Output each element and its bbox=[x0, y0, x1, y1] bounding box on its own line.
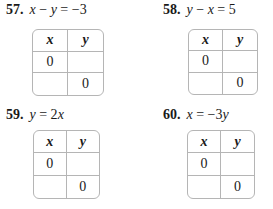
header-x: x bbox=[33, 30, 68, 52]
problem-60-label: 60.x = −3y bbox=[163, 107, 229, 123]
equation: x − y = −3 bbox=[30, 2, 87, 17]
cell-r1-x: 0 bbox=[34, 153, 67, 175]
cell-r2-y: 0 bbox=[223, 73, 257, 94]
header-y: y bbox=[67, 131, 100, 153]
cell-r2-x bbox=[189, 73, 223, 94]
value-table-57: x y 0 0 bbox=[32, 29, 104, 96]
header-x: x bbox=[34, 131, 67, 153]
cell-r1-y bbox=[67, 153, 100, 175]
equation: x = −3y bbox=[187, 107, 229, 122]
cell-r1-x: 0 bbox=[33, 52, 68, 74]
cell-r1-x: 0 bbox=[189, 51, 223, 72]
equation: y = 2x bbox=[30, 107, 64, 122]
problem-59-label: 59.y = 2x bbox=[6, 107, 64, 123]
problem-number: 57. bbox=[6, 2, 24, 17]
cell-r2-y: 0 bbox=[68, 73, 103, 95]
value-table-60: x y 0 0 bbox=[187, 130, 255, 199]
cell-r2-x bbox=[33, 73, 68, 95]
cell-r2-y: 0 bbox=[221, 176, 254, 198]
cell-r1-y bbox=[223, 51, 257, 72]
header-y: y bbox=[68, 30, 103, 52]
cell-r1-y bbox=[68, 52, 103, 74]
problem-number: 59. bbox=[6, 107, 24, 122]
problem-number: 60. bbox=[163, 107, 181, 122]
cell-r2-x bbox=[34, 176, 67, 198]
cell-r1-x: 0 bbox=[188, 153, 221, 175]
header-y: y bbox=[221, 131, 254, 153]
header-x: x bbox=[189, 30, 223, 51]
problem-58-label: 58.y − x = 5 bbox=[163, 2, 236, 18]
value-table-58: x y 0 0 bbox=[188, 29, 258, 95]
value-table-59: x y 0 0 bbox=[33, 130, 100, 199]
problem-57-label: 57.x − y = −3 bbox=[6, 2, 87, 18]
header-x: x bbox=[188, 131, 221, 153]
equation: y − x = 5 bbox=[187, 2, 236, 17]
problem-number: 58. bbox=[163, 2, 181, 17]
header-y: y bbox=[223, 30, 257, 51]
cell-r2-x bbox=[188, 176, 221, 198]
cell-r2-y: 0 bbox=[67, 176, 100, 198]
cell-r1-y bbox=[221, 153, 254, 175]
